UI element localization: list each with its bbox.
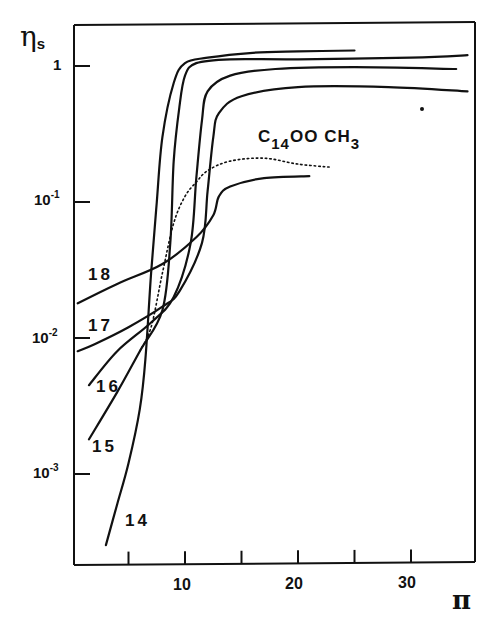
series-line-16: [89, 67, 456, 385]
curve-label-17: 17: [88, 316, 113, 336]
series-line-15: [89, 55, 468, 439]
chart-canvas: [0, 0, 482, 619]
y-tick-label-1e-2: 10-2: [32, 327, 58, 346]
x-tick-label-10: 10: [173, 576, 191, 594]
x-tick-label-30: 30: [398, 574, 416, 592]
x-tick-label-20: 20: [285, 575, 303, 593]
x-axis-label: π: [452, 585, 471, 615]
series-lines: [78, 51, 468, 546]
stray-dot-mark: [420, 107, 424, 111]
y-tick-label-1e-3: 10-3: [33, 462, 59, 481]
y-axis-label-main: η: [20, 20, 37, 53]
series-line-14: [106, 51, 355, 546]
curve-label-15: 15: [92, 437, 117, 457]
y-axis-label-sub: s: [37, 35, 45, 52]
plot-frame: [74, 22, 475, 565]
curve-label-14: 14: [125, 511, 150, 531]
y-axis-label: ηs: [20, 20, 45, 53]
curve-label-18: 18: [88, 265, 113, 285]
curve-label-16: 16: [96, 377, 121, 397]
series-line-17: [78, 86, 468, 351]
y-tick-label-1: 1: [53, 56, 61, 73]
y-tick-label-1e-1: 10-1: [34, 189, 60, 208]
dotted-series-label: C14OO CH3: [258, 127, 360, 152]
